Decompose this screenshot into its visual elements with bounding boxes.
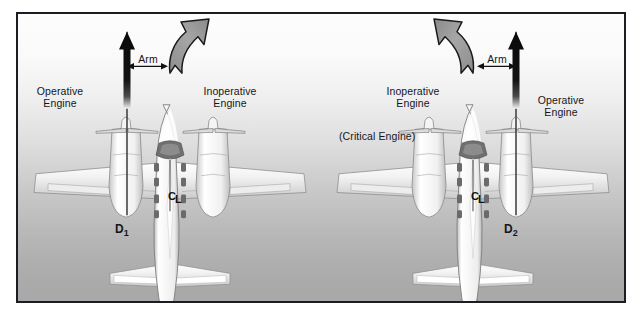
label-moment-arm-d2: D2 (504, 222, 518, 239)
label-critical-engine: (Critical Engine) (339, 130, 415, 142)
inoperative-engine-line1: Inoperative (203, 85, 256, 97)
operative-engine-line2: Engine (538, 106, 584, 118)
centerline-l: L (175, 193, 182, 205)
thrust-arrow-right (508, 32, 524, 109)
operative-engine-line2: Engine (37, 97, 83, 109)
right-panel-graphics (321, 14, 624, 301)
d1-symbol: D (115, 222, 124, 236)
figure-root: Operative Engine Inoperative Engine Arm … (0, 0, 642, 319)
centerline-l: L (478, 193, 485, 205)
diagram-frame: Operative Engine Inoperative Engine Arm … (16, 12, 626, 303)
inoperative-engine-line1: Inoperative (386, 85, 439, 97)
thrust-arrow-left (119, 32, 135, 109)
inoperative-engine-line2: Engine (386, 97, 439, 109)
right-engine-nacelle (486, 117, 548, 217)
d2-symbol: D (504, 222, 513, 236)
centerline-symbol-left: C L (168, 190, 188, 206)
d1-subscript: 1 (124, 228, 129, 238)
yaw-arrow-left (170, 19, 209, 73)
operative-engine-line1: Operative (538, 94, 584, 106)
label-operative-engine-right: Operative Engine (538, 94, 584, 119)
left-panel-graphics (18, 14, 321, 301)
d2-subscript: 2 (513, 228, 518, 238)
left-panel-asymmetric-thrust: Operative Engine Inoperative Engine Arm … (18, 14, 321, 301)
label-arm-right: Arm (487, 53, 507, 65)
right-panel-asymmetric-thrust: Inoperative Engine (Critical Engine) Ope… (321, 14, 624, 301)
label-arm-left: Arm (138, 53, 158, 65)
centerline-symbol-right: C L (471, 190, 491, 206)
label-moment-arm-d1: D1 (115, 222, 129, 239)
label-inoperative-engine-right: Inoperative Engine (386, 85, 439, 110)
operative-engine-line1: Operative (37, 85, 83, 97)
right-engine-nacelle (183, 117, 245, 217)
yaw-arrow-right (434, 19, 473, 73)
inoperative-engine-line2: Engine (203, 97, 256, 109)
left-engine-nacelle (96, 117, 158, 217)
label-inoperative-engine-left: Inoperative Engine (203, 85, 256, 110)
label-operative-engine-left: Operative Engine (37, 85, 83, 110)
